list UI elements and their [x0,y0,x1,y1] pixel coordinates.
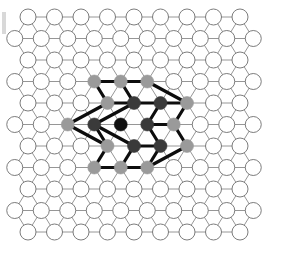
lattice-site [113,31,129,47]
lattice-site [7,203,23,219]
lattice-site [219,74,235,90]
lattice-site [206,138,222,154]
lattice-site [179,181,195,197]
cluster-site-second-shell [101,97,114,110]
lattice-site [33,31,49,47]
lattice-site [179,9,195,25]
lattice-site [206,224,222,240]
lattice-site [73,95,89,111]
lattice-site [20,138,36,154]
cluster-site-second-shell [88,75,101,88]
lattice-site [126,9,142,25]
lattice-site [73,9,89,25]
lattice-site [20,224,36,240]
lattice-site [232,9,248,25]
lattice-site [47,95,63,111]
figure-canvas [0,0,288,260]
cluster-site-center [114,118,127,131]
lattice-site [232,138,248,154]
lattice-site [20,9,36,25]
lattice-site [245,74,261,90]
lattice-site [206,181,222,197]
lattice-site [219,160,235,176]
lattice-site [232,52,248,68]
cluster-site-second-shell [61,118,74,131]
lattice-site [33,203,49,219]
lattice-site [206,95,222,111]
lattice-site [245,31,261,47]
lattice-site [86,31,102,47]
lattice-site [126,181,142,197]
cluster-site-second-shell [167,118,180,131]
lattice-site [7,160,23,176]
lattice-site [139,31,155,47]
scan-artifact-layer [2,12,6,34]
lattice-site [47,52,63,68]
lattice-site [86,203,102,219]
lattice-site [20,95,36,111]
lattice-site [166,160,182,176]
lattice-site [33,117,49,133]
cluster-site-first-shell [88,118,101,131]
cluster-site-first-shell [128,97,141,110]
lattice-site [192,31,208,47]
lattice-site [192,160,208,176]
lattice-site [219,117,235,133]
lattice-site [33,74,49,90]
scan-edge-mark [2,12,6,34]
lattice-site [33,160,49,176]
cluster-site-second-shell [181,140,194,153]
lattice-site [60,203,76,219]
lattice-site [232,224,248,240]
lattice-site [126,52,142,68]
lattice-site [245,203,261,219]
lattice-site [192,74,208,90]
lattice-site [47,9,63,25]
lattice-site [166,203,182,219]
cluster-site-second-shell [141,161,154,174]
lattice-site [206,52,222,68]
lattice-site [245,160,261,176]
lattice-site [47,138,63,154]
cluster-site-second-shell [114,161,127,174]
lattice-site [100,9,116,25]
cluster-site-second-shell [181,97,194,110]
lattice-site [179,224,195,240]
lattice-site [73,224,89,240]
cluster-site-second-shell [88,161,101,174]
lattice-site [245,117,261,133]
lattice-site [153,9,169,25]
lattice-site [126,224,142,240]
lattice-site [60,74,76,90]
lattice-site [153,224,169,240]
lattice-site [219,31,235,47]
lattice-site [139,203,155,219]
lattice-site [219,203,235,219]
lattice-site [166,74,182,90]
lattice-site [73,138,89,154]
lattice-site [100,52,116,68]
lattice-site [100,181,116,197]
lattice-site [73,181,89,197]
lattice-site [7,74,23,90]
cluster-site-second-shell [114,75,127,88]
lattice-site [153,181,169,197]
lattice-site [47,224,63,240]
lattice-site [232,95,248,111]
cluster-site-second-shell [101,140,114,153]
triangular-lattice-diagram [0,0,288,260]
cluster-site-first-shell [154,97,167,110]
lattice-site [60,31,76,47]
lattice-site [192,203,208,219]
cluster-site-first-shell [128,140,141,153]
lattice-site [7,31,23,47]
cluster-site-second-shell [141,75,154,88]
cluster-site-first-shell [141,118,154,131]
lattice-site [179,52,195,68]
lattice-site [20,52,36,68]
lattice-site [60,160,76,176]
lattice-site [232,181,248,197]
cluster-site-first-shell [154,140,167,153]
lattice-site [113,203,129,219]
lattice-site [192,117,208,133]
